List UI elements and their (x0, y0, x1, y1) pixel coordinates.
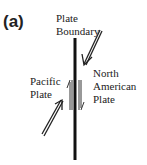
plate-boundary-diagram: (a) Plate Boundary Pacific Plate North A… (0, 0, 147, 165)
arrow-bottom-left-icon (42, 100, 63, 136)
half-arrow-up-icon (67, 80, 72, 110)
arrow-top-right-icon (82, 30, 102, 65)
half-arrow-down-icon (79, 80, 84, 110)
diagram-graphics (0, 0, 147, 165)
